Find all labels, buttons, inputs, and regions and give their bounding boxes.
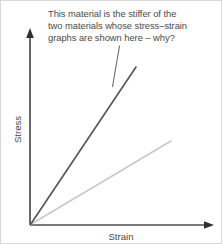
x-axis-arrowhead — [204, 221, 214, 229]
stress-strain-figure: This material is the stiffer of the two … — [0, 0, 222, 244]
series-line-stiffer — [31, 67, 137, 225]
y-axis-label: Stress — [12, 100, 23, 160]
x-axis-label: Strain — [91, 231, 151, 242]
annotation-line-2: two materials whose stress–strain — [48, 20, 220, 32]
series-line-less-stiff — [31, 141, 172, 225]
annotation-callout: This material is the stiffer of the two … — [48, 8, 220, 45]
annotation-leader-line — [113, 46, 120, 87]
annotation-line-1: This material is the stiffer of the — [48, 8, 220, 20]
annotation-line-3: graphs are shown here – why? — [48, 32, 220, 44]
y-axis-arrowhead — [26, 28, 34, 38]
